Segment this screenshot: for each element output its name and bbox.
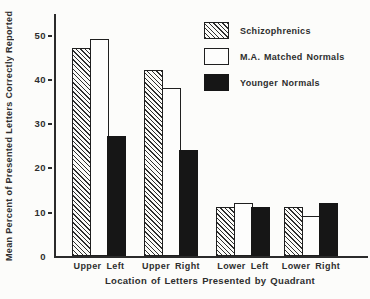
legend-row: Younger Normals <box>204 74 345 91</box>
bar-white <box>162 88 181 256</box>
legend-label: Schizophrenics <box>240 26 311 36</box>
x-category-label: Lower Left <box>207 261 279 271</box>
figure: Mean Percent of Presented Letters Correc… <box>0 0 370 299</box>
y-tick-label: 50 <box>24 30 46 42</box>
y-tick-mark <box>48 79 52 81</box>
y-tick-mark <box>48 167 52 169</box>
bar-black <box>107 136 126 256</box>
legend-row: M.A. Matched Normals <box>204 48 345 65</box>
hatched-swatch-icon <box>204 22 229 39</box>
bar-group <box>72 39 126 256</box>
y-tick-mark <box>48 123 52 125</box>
legend-row: Schizophrenics <box>204 22 345 39</box>
y-tick-label: 0 <box>24 251 46 263</box>
bar-hatched <box>144 70 163 256</box>
bar-black <box>251 207 270 256</box>
y-tick-mark <box>48 212 52 214</box>
bar-black <box>319 203 338 256</box>
x-category-label: Upper Right <box>135 261 207 271</box>
bar-hatched <box>72 48 91 256</box>
x-category-label: Upper Left <box>63 261 135 271</box>
x-axis-title: Location of Letters Presented by Quadran… <box>54 275 366 286</box>
bar-hatched <box>284 207 303 256</box>
bar-black <box>179 150 198 256</box>
black-swatch-icon <box>204 74 229 91</box>
y-tick-label: 40 <box>24 74 46 86</box>
x-category-label: Lower Right <box>275 261 347 271</box>
legend-label: M.A. Matched Normals <box>240 52 345 62</box>
bar-group <box>284 203 338 256</box>
bar-group <box>144 70 198 256</box>
legend-label: Younger Normals <box>240 78 320 88</box>
bar-group <box>216 203 270 256</box>
y-tick-label: 10 <box>24 207 46 219</box>
legend: SchizophrenicsM.A. Matched NormalsYounge… <box>204 22 345 100</box>
bar-white <box>234 203 253 256</box>
y-axis-title: Mean Percent of Presented Letters Correc… <box>4 14 14 258</box>
bar-white <box>90 39 109 256</box>
white-swatch-icon <box>204 48 229 65</box>
y-tick-label: 20 <box>24 162 46 174</box>
bar-white <box>302 216 321 256</box>
bar-hatched <box>216 207 235 256</box>
y-tick-mark <box>48 35 52 37</box>
y-tick-label: 30 <box>24 118 46 130</box>
